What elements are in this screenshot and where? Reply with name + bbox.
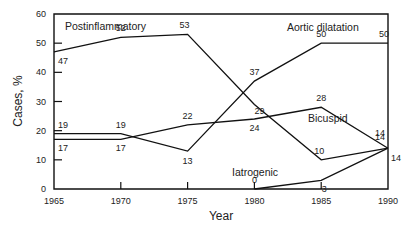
data-label-postinflammatory: 10: [314, 146, 324, 156]
data-label-bicuspid: 28: [316, 93, 326, 103]
axes: 0102030405060196519701975198019851990: [36, 9, 398, 206]
data-label-bicuspid: 24: [249, 123, 259, 133]
series-name-postinflammatory: Postinflammatory: [65, 20, 147, 32]
x-tick-label: 1985: [311, 196, 331, 206]
data-label-bicuspid: 17: [58, 143, 68, 153]
series-name-aortic-dilatation: Aortic dilatation: [287, 21, 359, 33]
y-tick-label: 60: [36, 9, 46, 19]
data-label-aortic-dilatation: 13: [183, 156, 193, 166]
series-name-bicuspid: Bicuspid: [308, 112, 348, 124]
series-line-aortic-dilatation: [54, 43, 388, 151]
series-line-postinflammatory: [54, 34, 388, 159]
y-tick-label: 40: [36, 67, 46, 77]
y-tick-label: 50: [36, 38, 46, 48]
plot-frame: [54, 14, 388, 189]
line-chart: 0102030405060196519701975198019851990 47…: [0, 0, 416, 230]
data-label-postinflammatory: 29: [254, 106, 264, 116]
data-label-postinflammatory: 53: [180, 20, 190, 30]
data-label-bicuspid: 22: [183, 111, 193, 121]
y-tick-label: 20: [36, 126, 46, 136]
x-tick-label: 1990: [378, 196, 398, 206]
x-tick-label: 1965: [44, 196, 64, 206]
data-label-bicuspid: 17: [116, 143, 126, 153]
x-tick-label: 1980: [244, 196, 264, 206]
y-axis-title: Cases, %: [11, 75, 25, 127]
x-axis-title: Year: [209, 209, 233, 223]
y-tick-label: 10: [36, 155, 46, 165]
x-tick-label: 1975: [178, 196, 198, 206]
data-label-bicuspid: 14: [375, 128, 385, 138]
y-tick-label: 0: [41, 184, 46, 194]
data-label-aortic-dilatation: 19: [116, 120, 126, 130]
data-label-iatrogenic: 3: [322, 184, 327, 194]
y-tick-label: 30: [36, 97, 46, 107]
data-label-postinflammatory: 47: [58, 56, 68, 66]
data-label-aortic-dilatation: 37: [249, 67, 259, 77]
data-label-aortic-dilatation: 50: [379, 29, 389, 39]
data-label-aortic-dilatation: 19: [58, 120, 68, 130]
series-name-iatrogenic: Iatrogenic: [232, 166, 278, 178]
x-tick-label: 1970: [111, 196, 131, 206]
data-label-iatrogenic: 14: [391, 153, 401, 163]
